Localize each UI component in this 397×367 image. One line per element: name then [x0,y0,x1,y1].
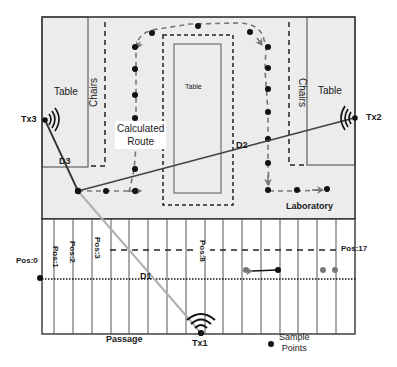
left-chairs-label: Chairs [88,78,99,107]
passage-point-gray [320,267,326,273]
pos2-label: Pos:2 [68,241,77,263]
passage-area [42,219,355,334]
pos3-label: Pos:3 [93,237,102,259]
passage-point-gray [332,267,338,273]
pos0-point [37,275,43,281]
diagram-graphics [0,0,397,367]
laboratory-label: Laboratory [286,201,333,211]
d3-label: D3 [59,156,71,166]
pos8-label: Pos:8 [198,240,207,262]
tx1-label: Tx1 [192,338,208,348]
center-table-label: Table [185,83,202,90]
tx3-label: Tx3 [21,114,37,124]
passage-point-gray [243,267,249,273]
calculated-route-label: Calculated Route [115,121,166,149]
right-table-label: Table [318,85,342,96]
pos1-label: Pos:1 [51,246,60,268]
d1-label: D1 [140,271,152,281]
passage-point [275,267,281,273]
pos0-label: Pos:0 [16,256,38,265]
estimated-position [75,188,81,194]
legend-sample-point-icon [268,341,274,347]
indoor-localization-diagram: Table Table Table Chairs Chairs Calculat… [0,0,397,367]
right-chairs-label: Chairs [297,78,308,107]
left-table-label: Table [54,86,78,97]
passage-label: Passage [106,334,143,344]
tx2-label: Tx2 [366,112,382,122]
legend-sample-points-label: Sample Points [279,332,310,354]
d2-label: D2 [236,140,248,150]
pos17-label: Pos:17 [341,244,367,253]
